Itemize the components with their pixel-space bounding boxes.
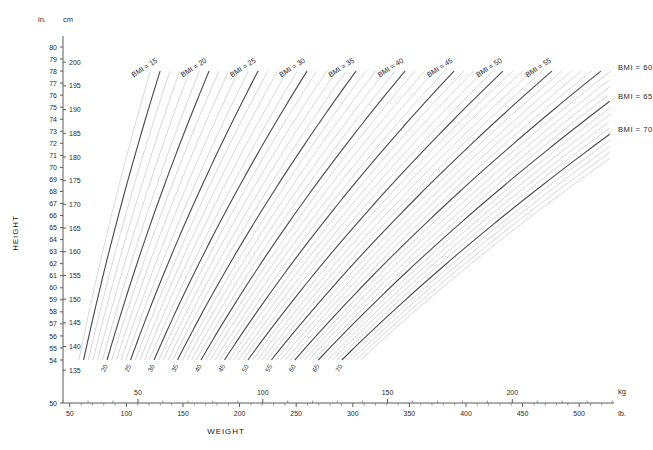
bmi-major-line (107, 71, 209, 360)
y-tick-label-inches: 61 (49, 272, 57, 279)
y-tick-label-inches: 75 (49, 104, 57, 111)
y-tick-label-centimeters: 140 (69, 343, 81, 350)
y-tick-label-centimeters: 155 (69, 272, 81, 279)
y-tick-label-inches: 68 (49, 188, 57, 195)
y-tick-label-centimeters: 145 (69, 319, 81, 326)
bmi-minor-line (281, 71, 572, 360)
y-tick-label-centimeters: 160 (69, 248, 81, 255)
bmi-minor-line (116, 71, 228, 360)
bmi-curve-label-bottom: 50 (240, 363, 250, 373)
bmi-minor-line (328, 113, 612, 360)
y-tick-label-inches: 80 (49, 44, 57, 51)
x-tick-label-pounds: 250 (290, 410, 302, 417)
bmi-major-line (84, 71, 160, 360)
bmi-curve-label-bottom: 35 (170, 363, 180, 373)
bmi-curve-label-bottom: 40 (193, 363, 203, 373)
bmi-curve-label-bottom: 25 (123, 363, 133, 373)
bmi-curve-label-top: BMI = 35 (327, 56, 356, 79)
bmi-minor-line (126, 71, 248, 360)
bmi-curve-label-bottom: 70 (334, 363, 344, 373)
x-tick-label-pounds: 350 (404, 410, 416, 417)
bmi-curve-label-top: BMI = 25 (228, 56, 257, 79)
y-tick-label-inches: 69 (49, 176, 57, 183)
bmi-curve-label-bottom: 65 (311, 363, 321, 373)
y-tick-label-centimeters: 195 (69, 82, 81, 89)
x-axis-title: WEIGHT (207, 427, 244, 436)
bmi-minor-line (262, 71, 532, 360)
chart-canvas: 8079787776757473727170696867666564636261… (0, 0, 653, 450)
y-axis-unit-centimeters: cm (63, 15, 73, 24)
bmi-minor-line (187, 71, 376, 360)
y-tick-label-inches: 66 (49, 212, 57, 219)
y-tick-label-inches: 72 (49, 140, 57, 147)
y-tick-label-inches: 76 (49, 92, 57, 99)
bmi-minor-line (356, 152, 610, 360)
y-tick-label-inches: 59 (49, 296, 57, 303)
bmi-curve-label-bottom: 30 (146, 363, 156, 373)
x-tick-label-pounds: 100 (121, 410, 133, 417)
y-tick-label-centimeters: 170 (69, 201, 81, 208)
y-tick-label-inches: 79 (49, 56, 57, 63)
y-tick-label-inches: 57 (49, 320, 57, 327)
bmi-major-line (131, 71, 259, 360)
x-tick-label-kilograms: 200 (506, 389, 518, 396)
bmi-curve-label-right: BMI = 70 (618, 125, 653, 134)
y-tick-label-inches: 70 (49, 164, 57, 171)
x-tick-label-pounds: 150 (177, 410, 189, 417)
y-tick-label-centimeters: 190 (69, 106, 81, 113)
y-tick-label-centimeters: 135 (69, 367, 81, 374)
y-tick-label-inches: 58 (49, 308, 57, 315)
y-tick-label-inches-origin: 50 (49, 400, 57, 407)
x-tick-label-pounds: 400 (460, 410, 472, 417)
bmi-curve-label-right: BMI = 60 (618, 63, 653, 72)
y-tick-label-inches: 60 (49, 284, 57, 291)
bmi-major-line (248, 71, 503, 360)
x-tick-label-pounds: 450 (517, 410, 529, 417)
x-tick-label-kilograms: 100 (257, 389, 269, 396)
bmi-curve-label-bottom: 45 (217, 363, 227, 373)
y-tick-label-inches: 63 (49, 248, 57, 255)
y-tick-label-inches: 73 (49, 128, 57, 135)
bmi-minor-line (314, 95, 609, 360)
bmi-curve-label-top: BMI = 20 (179, 56, 208, 79)
y-tick-label-inches: 56 (49, 333, 57, 340)
x-tick-label-pounds: 300 (347, 410, 359, 417)
y-tick-label-inches: 62 (49, 260, 57, 267)
y-tick-label-centimeters: 185 (69, 130, 81, 137)
y-tick-label-inches: 71 (49, 152, 57, 159)
y-tick-label-inches: 74 (49, 116, 57, 123)
x-axis-unit-pounds: lb. (618, 409, 626, 418)
bmi-minor-line (323, 107, 611, 360)
bmi-curve-label-bottom: 20 (99, 363, 109, 373)
x-tick-label-pounds: 200 (234, 410, 246, 417)
y-tick-label-inches: 65 (49, 224, 57, 231)
y-axis-group: 8079787776757473727170696867666564636261… (49, 36, 81, 407)
bmi-minor-line (121, 71, 238, 360)
bmi-curve-label-bottom: 55 (264, 363, 274, 373)
bmi-curve-label-top: BMI = 30 (277, 56, 306, 79)
bmi-curve-label-right: BMI = 65 (618, 92, 653, 101)
bmi-minor-line (206, 71, 415, 360)
bmi-curve-label-top: BMI = 15 (130, 56, 159, 79)
y-tick-label-centimeters: 180 (69, 154, 81, 161)
bmi-minor-line (253, 71, 513, 360)
bmi-minor-line (102, 71, 199, 360)
x-axis-group: 5010015020025030035040045050050100150200 (63, 389, 614, 417)
bmi-major-line (318, 101, 609, 360)
y-tick-label-inches: 77 (49, 80, 57, 87)
bmi-minor-line (276, 71, 562, 360)
x-axis-unit-kilograms: kg (618, 387, 626, 396)
bmi-major-line (201, 71, 405, 360)
bmi-minor-line (192, 71, 386, 360)
bmi-minor-line (168, 71, 336, 360)
y-tick-label-centimeters: 165 (69, 225, 81, 232)
y-tick-label-inches: 54 (49, 357, 57, 364)
bmi-major-line (271, 71, 552, 360)
x-tick-label-kilograms: 150 (382, 389, 394, 396)
bmi-nomogram-chart: 8079787776757473727170696867666564636261… (0, 0, 653, 450)
bmi-minor-line (173, 71, 346, 360)
bmi-minor-lines-group (79, 71, 612, 360)
bmi-curve-label-bottom: 60 (287, 363, 297, 373)
x-tick-label-kilograms: 50 (134, 389, 142, 396)
y-tick-label-centimeters: 175 (69, 177, 81, 184)
